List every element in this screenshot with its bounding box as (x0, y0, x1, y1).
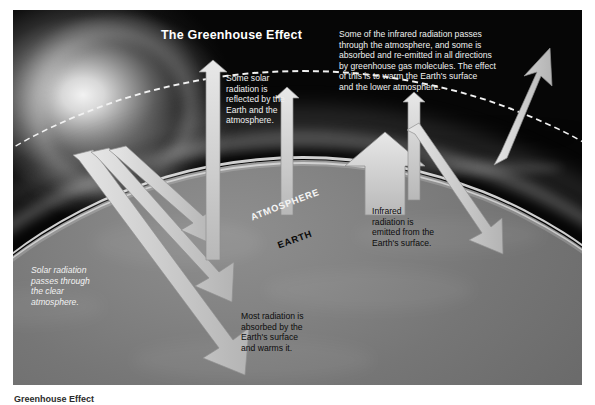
annotation-solar-passes: Solar radiation passes through the clear… (31, 265, 131, 307)
figure-title: The Greenhouse Effect (161, 28, 302, 42)
figure-caption: Greenhouse Effect (14, 394, 214, 405)
figure-stage: The Greenhouse Effect Some solar radiati… (0, 0, 595, 405)
arrow-infrared-escaping (403, 92, 425, 200)
annotation-infrared-passes: Some of the infrared radiation passes th… (339, 29, 574, 93)
greenhouse-effect-illustration: The Greenhouse Effect Some solar radiati… (13, 10, 582, 385)
annotation-most-absorbed: Most radiation is absorbed by the Earth'… (241, 311, 349, 353)
annotation-reflected-solar: Some solar radiation is reflected by the… (226, 73, 321, 126)
annotation-infrared-emitted: Infrared radiation is emitted from the E… (372, 206, 467, 248)
